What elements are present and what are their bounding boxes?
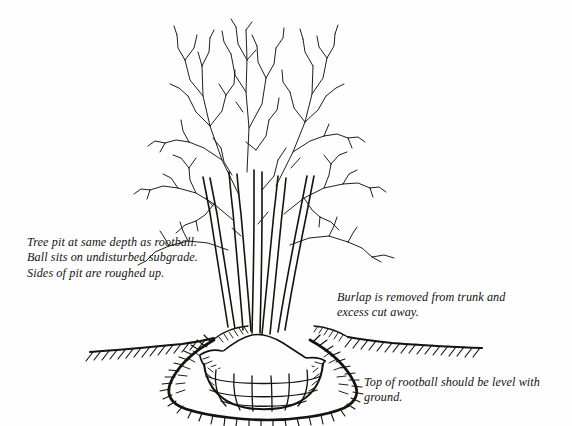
illustration-canvas: .ink { fill:none; stroke:#151210; stroke… (0, 0, 572, 426)
annotation-rootball-level: Top of rootball should be level with gro… (364, 375, 569, 406)
berm-right (314, 326, 348, 341)
annotation-burlap: Burlap is removed from trunk and excess … (337, 290, 562, 321)
ground-line-left (86, 338, 214, 361)
ground-line-right (345, 337, 482, 357)
tree-planting-diagram: .ink { fill:none; stroke:#151210; stroke… (0, 0, 572, 426)
annotation-pit-depth: Tree pit at same depth as rootball. Ball… (27, 235, 257, 281)
tree-canopy (134, 19, 394, 265)
